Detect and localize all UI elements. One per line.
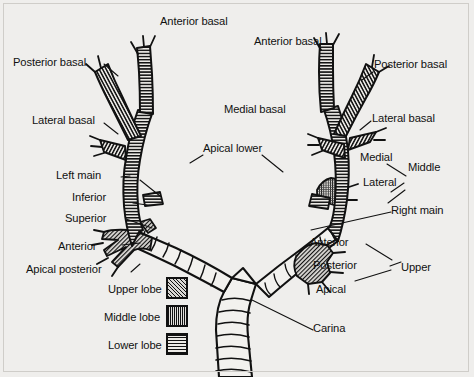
legend-label-lower-lobe: Lower lobe	[108, 340, 162, 351]
legend-label-middle-lobe: Middle lobe	[104, 312, 160, 323]
label-right-posterior: Posterior	[313, 260, 357, 271]
figure-canvas: Anterior basal Posterior basal Lateral b…	[0, 0, 474, 377]
label-right-anterior: Anterior	[310, 237, 348, 248]
label-carina: Carina	[313, 323, 345, 334]
label-right-upper: Upper	[401, 262, 431, 273]
label-left-main: Left main	[56, 170, 101, 181]
legend-label-upper-lobe: Upper lobe	[108, 284, 162, 295]
label-right-middle: Middle	[408, 162, 440, 173]
label-right-apical: Apical	[316, 284, 346, 295]
label-left-superior: Superior	[65, 213, 107, 224]
label-left-inferior: Inferior	[72, 192, 106, 203]
label-left-lateral-basal: Lateral basal	[32, 115, 95, 126]
label-right-anterior-basal: Anterior basal	[254, 36, 322, 47]
label-apical-lower: Apical lower	[203, 143, 262, 154]
label-left-posterior-basal: Posterior basal	[13, 57, 86, 68]
trachea	[216, 278, 256, 377]
label-right-main: Right main	[391, 205, 443, 216]
legend-swatch-lower-lobe	[166, 333, 188, 355]
label-right-posterior-basal: Posterior basal	[374, 59, 447, 70]
label-left-anterior-basal: Anterior basal	[160, 16, 228, 27]
label-right-medial-basal: Medial basal	[224, 104, 286, 115]
legend-swatch-upper-lobe	[166, 277, 188, 299]
label-left-apical-posterior: Apical posterior	[26, 264, 102, 275]
label-left-anterior: Anterior	[58, 241, 96, 252]
legend-swatch-middle-lobe	[166, 305, 188, 327]
label-right-medial: Medial	[360, 152, 392, 163]
label-right-lateral: Lateral	[363, 177, 397, 188]
label-right-lateral-basal: Lateral basal	[372, 113, 435, 124]
